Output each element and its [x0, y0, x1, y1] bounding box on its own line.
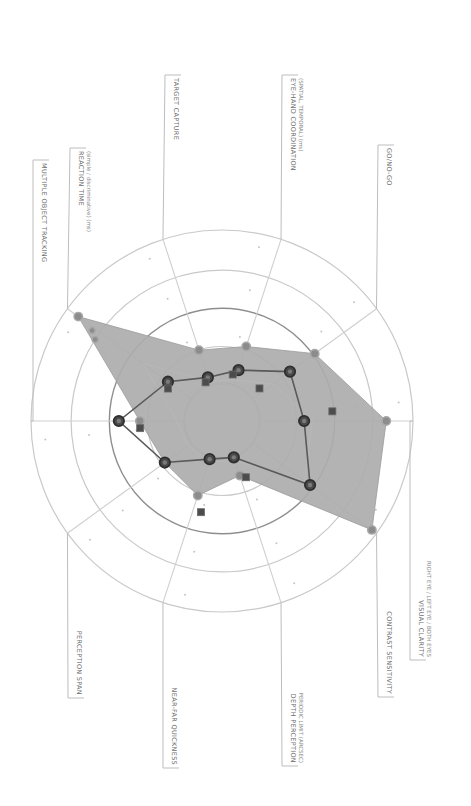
- line-point-core: [163, 460, 167, 464]
- axis-label: TARGET CAPTURE: [172, 77, 180, 140]
- axis-label: VISUAL CLARITY: [417, 600, 425, 657]
- area-point-marker: [311, 349, 319, 357]
- tick-mark: [186, 341, 188, 343]
- radar-chart: VISUAL CLARITYRIGHT EYE / LEFT EYE / BOT…: [0, 0, 471, 806]
- axis-label-group: VISUAL CLARITYRIGHT EYE / LEFT EYE / BOT…: [417, 561, 432, 658]
- axis-label: CONTRAST SENSITIVITY: [385, 611, 393, 694]
- tick-mark: [89, 539, 91, 541]
- area-point-marker: [195, 346, 203, 354]
- axis-leader-line: [67, 533, 68, 698]
- area-point-marker: [194, 491, 202, 499]
- tick-mark: [398, 401, 400, 403]
- square-point-marker: [164, 385, 171, 392]
- axis-leader-line: [377, 533, 378, 697]
- tick-mark: [353, 301, 355, 303]
- axis-sublabel: RIGHT EYE / LEFT EYE / BOTH EYES: [426, 561, 432, 658]
- area-point-marker: [382, 417, 390, 425]
- line-point-core: [288, 369, 292, 373]
- tick-mark: [239, 336, 241, 338]
- tick-mark: [44, 439, 46, 441]
- axis-label: REACTION TIME: [77, 151, 85, 206]
- area-point-marker: [136, 417, 144, 425]
- axis-label-group: DEPTH PERCEPTIONPERIODIC LIMIT (ARCSEC): [289, 693, 304, 763]
- tick-mark: [249, 289, 251, 291]
- tick-mark: [149, 258, 151, 260]
- axis-label: PERCEPTION SPAN: [75, 631, 83, 695]
- tick-mark: [157, 478, 159, 480]
- axis-label-group: NEAR-FAR QUICKNESS: [170, 688, 178, 765]
- square-point-marker: [137, 425, 144, 432]
- line-point-core: [308, 483, 312, 487]
- axis-label: DEPTH PERCEPTION: [289, 694, 297, 763]
- tick-mark: [184, 594, 186, 596]
- axis-label: MULTIPLE OBJECT TRACKING: [40, 163, 48, 262]
- axis-leader-line: [410, 421, 413, 660]
- area-point-marker: [89, 327, 95, 333]
- axis-label-group: EYE-HAND COORDINATION(SPATIAL, TEMPORAL)…: [289, 78, 304, 171]
- tick-mark: [167, 298, 169, 300]
- axis-sublabel: (simple / discriminative) (ms): [85, 151, 92, 232]
- axis-leader-line: [67, 148, 70, 309]
- line-point-core: [207, 457, 211, 461]
- tick-mark: [275, 542, 277, 544]
- square-point-marker: [256, 385, 263, 392]
- axis-label-group: PERCEPTION SPAN: [75, 631, 83, 695]
- tick-mark: [375, 509, 377, 511]
- axis-label-group: GO/NO-GO: [385, 148, 393, 186]
- axis-leader-line: [281, 75, 282, 239]
- axis-label-group: MULTIPLE OBJECT TRACKING: [40, 163, 48, 262]
- axis-label: EYE-HAND COORDINATION: [289, 78, 297, 171]
- tick-mark: [67, 331, 69, 333]
- tick-mark: [258, 246, 260, 248]
- axis-leader-line: [31, 160, 33, 421]
- square-point-marker: [242, 474, 249, 481]
- axis-label: NEAR-FAR QUICKNESS: [170, 688, 178, 765]
- axis-leader-line: [377, 145, 378, 309]
- area-point-marker: [242, 342, 250, 350]
- square-point-marker: [202, 379, 209, 386]
- line-point-core: [236, 368, 240, 372]
- square-point-marker: [329, 408, 336, 415]
- axis-sublabel: (SPATIAL, TEMPORAL) (ms): [298, 78, 304, 151]
- axis-label-group: REACTION TIME(simple / discriminative) (…: [77, 151, 92, 232]
- axis-label-group: TARGET CAPTURE: [172, 77, 180, 140]
- area-point-marker: [92, 336, 98, 342]
- tick-mark: [293, 582, 295, 584]
- axis-leader-line: [281, 603, 282, 766]
- tick-mark: [122, 509, 124, 511]
- tick-mark: [203, 504, 205, 506]
- tick-mark: [193, 551, 195, 553]
- axis-leader-line: [163, 75, 165, 239]
- line-point-core: [232, 455, 236, 459]
- square-point-marker: [229, 371, 236, 378]
- square-point-marker: [197, 509, 204, 516]
- area-point-marker: [74, 312, 82, 320]
- area-point-marker: [368, 526, 376, 534]
- tick-mark: [256, 499, 258, 501]
- axis-label: GO/NO-GO: [385, 148, 393, 186]
- line-point-core: [302, 419, 306, 423]
- axis-sublabel: PERIODIC LIMIT (ARCSEC): [298, 693, 304, 763]
- line-point-core: [166, 380, 170, 384]
- axis-label-group: CONTRAST SENSITIVITY: [385, 611, 393, 694]
- line-point-core: [117, 419, 121, 423]
- tick-mark: [88, 434, 90, 436]
- tick-mark: [320, 331, 322, 333]
